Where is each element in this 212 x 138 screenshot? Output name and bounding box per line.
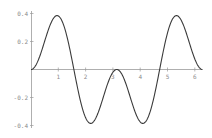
y-tick-label: 0.2 xyxy=(17,38,28,45)
y-tick-label: 0.4 xyxy=(17,10,28,17)
y-tick-label: -0.4 xyxy=(14,122,29,129)
y-ticks: 0.40.2-0.2-0.4 xyxy=(14,10,34,129)
y-tick-label: -0.2 xyxy=(14,94,29,101)
line-chart: 123456 0.40.2-0.2-0.4 xyxy=(0,0,212,138)
x-tick-label: 1 xyxy=(56,73,60,80)
x-tick-label: 2 xyxy=(84,73,88,80)
x-tick-label: 6 xyxy=(193,73,197,80)
x-tick-label: 5 xyxy=(166,73,170,80)
x-tick-label: 4 xyxy=(138,73,142,80)
